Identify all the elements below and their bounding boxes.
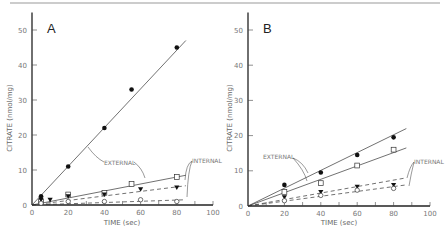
panel-a-external-label: EXTERNAL	[104, 159, 136, 166]
panel-a-axes: 01020304050020406080100	[18, 13, 220, 218]
y-tick-label: 40	[18, 62, 27, 70]
x-tick-label: 0	[246, 210, 250, 218]
data-point	[355, 153, 360, 158]
figure: A CITRATE (nmol/mg) TIME (sec) 010203040…	[0, 0, 447, 233]
data-point	[282, 190, 287, 195]
y-tick-label: 30	[234, 97, 243, 105]
data-point	[318, 181, 323, 186]
y-tick-label: 10	[18, 167, 27, 175]
x-tick-label: 100	[423, 210, 436, 218]
panel-b-external-label: EXTERNAL	[263, 153, 295, 160]
x-tick-label: 40	[100, 209, 109, 217]
panel-a-x-axis-title: TIME (sec)	[103, 219, 141, 227]
panel-a: A CITRATE (nmol/mg) TIME (sec) 010203040…	[6, 13, 222, 228]
panel-a-y-axis-title: CITRATE (nmol/mg)	[6, 84, 14, 152]
panel-b-axes: 01020304050020406080100	[234, 12, 437, 218]
panel-b-label: B	[263, 21, 272, 36]
data-point	[129, 182, 134, 187]
panel-b-series	[248, 129, 406, 206]
x-tick-label: 80	[389, 210, 398, 218]
panel-b-x-axis-title: TIME (sec)	[320, 219, 358, 227]
panel-a-annotations: EXTERNAL INTERNAL	[88, 147, 222, 197]
data-point	[282, 199, 286, 203]
y-tick-label: 40	[234, 62, 243, 70]
data-point	[66, 199, 70, 203]
panel-b-internal-arrow-1	[407, 162, 414, 178]
y-tick-label: 20	[18, 132, 27, 140]
data-point	[391, 186, 395, 190]
data-point	[175, 45, 180, 50]
panel-b: B CITRATE (nmol/mg) TIME (sec) 010203040…	[226, 12, 444, 227]
internal-filled-triangle-fit-line	[32, 186, 186, 205]
data-point	[138, 198, 142, 202]
panel-a-label: A	[47, 21, 56, 36]
x-tick-label: 20	[280, 210, 289, 218]
panel-b-external-arrow-2	[293, 158, 307, 181]
internal-open-circle-fit-line	[248, 185, 406, 206]
data-point	[391, 147, 396, 152]
data-point	[282, 183, 287, 188]
data-point	[355, 163, 360, 168]
y-tick-label: 50	[18, 27, 27, 35]
x-tick-label: 40	[316, 210, 325, 218]
panel-a-internal-label: INTERNAL	[192, 157, 222, 164]
y-tick-label: 10	[234, 167, 243, 175]
data-point	[355, 188, 359, 192]
x-tick-label: 20	[64, 209, 73, 217]
y-tick-label: 50	[234, 27, 243, 35]
panel-b-y-axis-title: CITRATE (nmol/mg)	[226, 84, 234, 152]
internal-filled-triangle-fit-line	[248, 178, 406, 206]
external-open-square-fit-line	[32, 175, 186, 205]
data-point	[319, 170, 324, 175]
panel-a-external-arrow-1	[88, 147, 104, 162]
data-point	[138, 187, 143, 191]
x-tick-label: 60	[353, 210, 362, 218]
data-point	[391, 135, 396, 140]
data-point	[319, 193, 323, 197]
data-point	[66, 164, 71, 169]
x-tick-label: 100	[206, 209, 219, 217]
panel-a-series	[32, 41, 186, 206]
data-point	[174, 186, 179, 190]
y-tick-label: 0	[23, 202, 27, 210]
x-tick-label: 0	[30, 209, 34, 217]
data-point	[129, 87, 134, 92]
data-point	[175, 199, 179, 203]
y-tick-label: 20	[234, 132, 243, 140]
data-point	[39, 201, 43, 205]
panel-b-internal-label: INTERNAL	[414, 158, 444, 165]
external-filled-circle-fit-line	[32, 41, 186, 206]
x-tick-label: 60	[136, 209, 145, 217]
y-tick-label: 30	[18, 97, 27, 105]
y-tick-label: 0	[239, 203, 243, 211]
x-tick-label: 80	[172, 209, 181, 217]
data-point	[174, 175, 179, 180]
panel-a-external-arrow-2	[134, 162, 145, 178]
data-point	[102, 199, 106, 203]
panel-b-annotations: EXTERNAL INTERNAL	[263, 153, 444, 186]
data-point	[102, 126, 107, 131]
external-filled-circle-fit-line	[248, 129, 406, 206]
